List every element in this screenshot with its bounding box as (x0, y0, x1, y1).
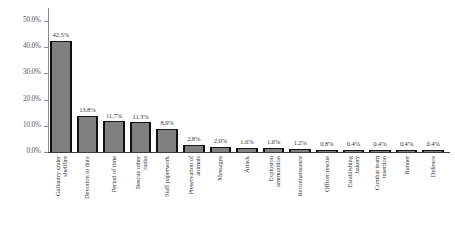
bar-value-label: 0.4% (347, 140, 360, 148)
bar-value-label: 8.9% (161, 119, 174, 127)
bar-value-label: 13.8% (79, 106, 95, 114)
bar-group[interactable]: 42.5% (50, 8, 72, 152)
x-axis-category-label: Messages (217, 156, 224, 226)
bar-group[interactable]: 11.3% (130, 8, 152, 152)
bar-value-label: 0.4% (373, 140, 386, 148)
y-axis-tick-label: 30.0% (23, 68, 41, 77)
bar-group[interactable]: 1.6% (236, 8, 258, 152)
x-axis-category: Staff paperwork (156, 156, 178, 228)
bar-value-label: 0.4% (400, 140, 413, 148)
bar[interactable] (236, 148, 258, 152)
bar[interactable] (103, 121, 125, 152)
x-axis-category: Officer rescue (316, 156, 338, 228)
x-axis-category: Defence (422, 156, 444, 228)
bar-value-label: 1.6% (267, 138, 280, 146)
bar[interactable] (263, 148, 285, 152)
bar-value-label: 11.7% (106, 112, 122, 120)
x-axis-category-label: Establishing bakery (346, 156, 361, 226)
y-axis-tick-mark (44, 152, 48, 153)
bar-group[interactable]: 0.4% (369, 8, 391, 152)
x-axis-category: Reconnaissance (289, 156, 311, 228)
bar-value-label: 0.4% (427, 140, 440, 148)
y-axis-tick-label: 40.0% (23, 42, 41, 51)
x-axis-category-label: Gallantry under shellfire (53, 156, 68, 226)
x-axis-category-label: Preservation of animals (186, 156, 201, 226)
bar-group[interactable]: 1.6% (263, 8, 285, 152)
bar-group[interactable]: 0.4% (396, 8, 418, 152)
bar-group[interactable]: 2.8% (183, 8, 205, 152)
y-axis-tick-label: 0.0% (26, 147, 41, 156)
bar-value-label: 2.8% (187, 135, 200, 143)
y-axis-tick-label: 50.0% (23, 16, 41, 25)
x-axis-category: Gallantry under shellfire (50, 156, 72, 228)
bar[interactable] (343, 150, 365, 153)
x-axis-category-label: Attack (243, 156, 250, 226)
bar[interactable] (369, 150, 391, 153)
bar[interactable] (50, 41, 72, 152)
x-axis-category-label: Combat team insertion (373, 156, 388, 226)
bar[interactable] (396, 150, 418, 153)
bar[interactable] (210, 147, 232, 152)
bar-value-label: 1.2% (294, 139, 307, 147)
bar[interactable] (316, 150, 338, 153)
x-axis-category-label: Runner (403, 156, 410, 226)
x-axis-category-label: Explosion ammunition (266, 156, 281, 226)
bar[interactable] (289, 149, 311, 152)
bar-group[interactable]: 11.7% (103, 8, 125, 152)
y-axis-tick-label: 10.0% (23, 121, 41, 130)
bar-value-label: 1.6% (240, 138, 253, 146)
bar-chart: 0.0%10.0%20.0%30.0%40.0%50.0% 42.5%13.8%… (0, 0, 455, 229)
bar[interactable] (183, 145, 205, 152)
y-axis-tick-label: 20.0% (23, 95, 41, 104)
bar-value-label: 42.5% (53, 31, 69, 39)
bar-value-label: 11.3% (133, 113, 149, 121)
x-axis-category-label: Period of time (110, 156, 117, 226)
bar[interactable] (130, 122, 152, 152)
x-axis-category: Establishing bakery (343, 156, 365, 228)
bar-group[interactable]: 8.9% (156, 8, 178, 152)
x-axis-category: Explosion ammunition (263, 156, 285, 228)
x-axis-category: Devotion to duty (77, 156, 99, 228)
x-axis-category: Messages (210, 156, 232, 228)
bar-group[interactable]: 13.8% (77, 8, 99, 152)
x-axis-category-label: Devotion to duty (84, 156, 91, 226)
x-axis-category: Runner (396, 156, 418, 228)
bar-value-label: 0.8% (320, 140, 333, 148)
x-axis-line (48, 152, 450, 153)
x-axis-category: Period of time (103, 156, 125, 228)
x-axis-category-label: Officer rescue (323, 156, 330, 226)
bar-group[interactable]: 0.8% (316, 8, 338, 152)
bar-value-label: 2.0% (214, 137, 227, 145)
bar-group[interactable]: 1.2% (289, 8, 311, 152)
x-axis-category-label: Rescue other ranks (133, 156, 148, 226)
bar-group[interactable]: 0.4% (422, 8, 444, 152)
x-axis-category: Preservation of animals (183, 156, 205, 228)
bar[interactable] (156, 129, 178, 152)
x-axis-category-label: Reconnaissance (296, 156, 303, 226)
x-axis-category: Combat team insertion (369, 156, 391, 228)
bar-group[interactable]: 0.4% (343, 8, 365, 152)
bar[interactable] (422, 150, 444, 153)
bar[interactable] (77, 116, 99, 152)
x-axis-category-label: Staff paperwork (163, 156, 170, 226)
x-axis-category-label: Defence (429, 156, 436, 226)
plot-area: 42.5%13.8%11.7%11.3%8.9%2.8%2.0%1.6%1.6%… (48, 8, 448, 152)
bar-group[interactable]: 2.0% (210, 8, 232, 152)
x-axis-category: Attack (236, 156, 258, 228)
x-axis-category: Rescue other ranks (130, 156, 152, 228)
